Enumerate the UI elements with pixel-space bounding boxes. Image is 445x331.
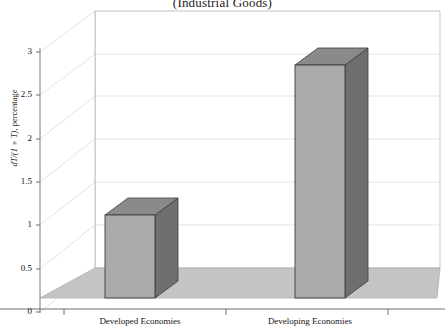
ytick-label-1-5: 1.5	[0, 176, 32, 186]
x-axis-ticks	[64, 309, 388, 315]
ytick-label-0-5: 0.5	[0, 263, 32, 273]
ytick-label-1: 1	[0, 219, 32, 229]
ytick-label-3: 3	[0, 46, 32, 56]
xtick-label-developing-economies: Developing Economies	[245, 316, 375, 326]
chart-root: (Industrial Goods) dT/(1 + T), percentag…	[0, 0, 445, 331]
bar-1-side	[155, 198, 178, 298]
xtick-label-developed-economies: Developed Economies	[75, 316, 205, 326]
ytick-label-2: 2	[0, 133, 32, 143]
bar-1-front	[105, 215, 155, 298]
plot-area	[0, 0, 445, 331]
ytick-label-0: 0	[0, 306, 32, 316]
ytick-label-2-5: 2.5	[0, 89, 32, 99]
bar-2-front	[295, 65, 345, 298]
floor	[40, 268, 440, 298]
y-axis-ticks	[36, 52, 40, 312]
bar-2-side	[345, 48, 368, 298]
left-wall	[40, 11, 95, 298]
